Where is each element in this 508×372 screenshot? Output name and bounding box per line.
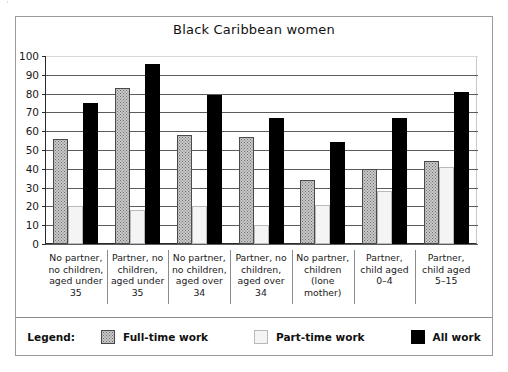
bar-group-2: [107, 56, 169, 244]
bar-all-1: [83, 103, 98, 244]
category-axis: No partner,no children,aged under35Partn…: [45, 246, 477, 308]
legend-text-part-time: Part-time work: [276, 331, 364, 343]
chart-title: Black Caribbean women: [15, 22, 493, 37]
y-axis-tickmark-0: [42, 244, 46, 245]
bar-all-4: [269, 118, 284, 244]
bar-group-5: [292, 56, 354, 244]
plot-wrapper: 0102030405060708090100: [45, 56, 477, 244]
category-label-4: Partner, nochildren,aged over34: [230, 246, 292, 308]
legend-text-full-time: Full-time work: [123, 331, 208, 343]
bar-part-4: [254, 225, 269, 244]
bar-all-7: [454, 92, 469, 244]
category-label-1: No partner,no children,aged under35: [45, 246, 107, 308]
chart-legend: Legend: Full-time work Part-time work Al…: [16, 318, 492, 355]
bar-full-5: [300, 180, 315, 244]
legend-title: Legend:: [27, 331, 75, 343]
bar-group-6: [354, 56, 416, 244]
legend-swatch-full-time-icon: [101, 330, 115, 344]
legend-swatch-part-time-icon: [254, 330, 268, 344]
bar-part-1: [68, 206, 83, 244]
bar-all-3: [207, 95, 222, 244]
bar-full-4: [239, 137, 254, 244]
bar-part-2: [130, 210, 145, 244]
scan-artifact: ’: [6, 1, 16, 10]
legend-item-full-time: Full-time work: [101, 330, 208, 344]
bar-full-1: [53, 139, 68, 244]
legend-item-part-time: Part-time work: [254, 330, 364, 344]
bar-group-7: [415, 56, 477, 244]
category-label-2: Partner, nochildren,aged under35: [107, 246, 169, 308]
bar-part-6: [377, 191, 392, 244]
bar-group-1: [45, 56, 107, 244]
bar-all-6: [392, 118, 407, 244]
bar-full-3: [177, 135, 192, 244]
legend-swatch-all-work-icon: [411, 330, 425, 344]
category-label-5: No partner,children(lonemother): [292, 246, 354, 308]
bar-part-5: [315, 205, 330, 244]
legend-item-all-work: All work: [411, 330, 481, 344]
gridline-0: [46, 244, 478, 245]
category-label-6: Partner,child aged0–4: [354, 246, 416, 308]
figure-root: ’ Black Caribbean women 0102030405060708…: [0, 0, 508, 372]
category-label-7: Partner,child aged5–15: [415, 246, 477, 308]
bar-full-6: [362, 169, 377, 244]
bar-all-5: [330, 142, 345, 244]
legend-text-all-work: All work: [433, 331, 481, 343]
bar-full-2: [115, 88, 130, 244]
bar-part-3: [192, 206, 207, 244]
bar-group-4: [230, 56, 292, 244]
bar-part-7: [439, 167, 454, 244]
bar-all-2: [145, 64, 160, 244]
bar-group-3: [168, 56, 230, 244]
bar-full-7: [424, 161, 439, 244]
category-label-3: No partner,no children,aged over34: [168, 246, 230, 308]
bar-groups: [45, 56, 477, 244]
